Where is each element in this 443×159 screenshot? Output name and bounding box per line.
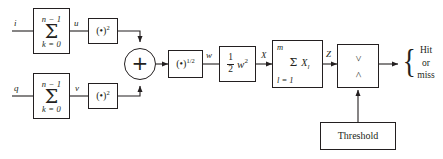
adder-node: + bbox=[124, 48, 156, 80]
sum-i-lower-limit: k = 0 bbox=[42, 40, 61, 49]
sqrt-expression: (•)1/2 bbox=[176, 58, 194, 69]
signal-label-X: X bbox=[261, 51, 267, 60]
adder-plus-symbol: + bbox=[132, 53, 149, 73]
signal-label-v: v bbox=[75, 84, 79, 93]
outcome-line-2: or bbox=[410, 57, 442, 70]
sum-q-sigma: Σ bbox=[45, 87, 58, 105]
threshold-label: Threshold bbox=[338, 131, 379, 141]
comparator-greater-symbol: > bbox=[353, 55, 364, 61]
signal-label-u: u bbox=[74, 19, 79, 28]
square-root-block: (•)1/2 bbox=[168, 50, 203, 78]
comparator-less-symbol: < bbox=[353, 71, 364, 77]
input-label-i: i bbox=[14, 19, 17, 28]
one-half-fraction: 1 2 bbox=[227, 53, 234, 75]
square-i-expression: (•)2 bbox=[96, 25, 109, 36]
comparator-block: > < bbox=[337, 44, 379, 88]
sum-xl-lower-limit: l = 1 bbox=[277, 76, 294, 85]
half-w-squared-block: 1 2 w2 bbox=[219, 46, 256, 82]
square-block-q: (•)2 bbox=[88, 83, 118, 109]
sum-xl-expression: ΣXl bbox=[273, 57, 322, 71]
square-block-i: (•)2 bbox=[88, 18, 118, 44]
block-diagram: i n − 1 Σ k = 0 u (•)2 q n − 1 Σ k = 0 v… bbox=[0, 0, 443, 159]
sum-i-sigma: Σ bbox=[45, 22, 58, 40]
signal-label-w: w bbox=[206, 51, 212, 60]
sum-xl-term: Xl bbox=[301, 57, 309, 68]
summation-block-q: n − 1 Σ k = 0 bbox=[33, 73, 70, 119]
outcome-text: Hit or miss bbox=[410, 44, 442, 82]
outcome-line-1: Hit bbox=[410, 44, 442, 57]
input-label-q: q bbox=[14, 84, 19, 93]
summation-block-i: n − 1 Σ k = 0 bbox=[33, 8, 70, 54]
fraction-numerator: 1 bbox=[227, 53, 234, 63]
outcome-line-3: miss bbox=[410, 69, 442, 82]
signal-label-Z: Z bbox=[326, 50, 331, 59]
w-squared-term: w2 bbox=[237, 58, 248, 70]
summation-block-xl: m ΣXl l = 1 bbox=[272, 40, 323, 88]
square-q-expression: (•)2 bbox=[96, 90, 109, 101]
sum-q-lower-limit: k = 0 bbox=[42, 105, 61, 114]
threshold-block: Threshold bbox=[320, 122, 396, 150]
sum-xl-upper-limit: m bbox=[277, 43, 283, 52]
fraction-denominator: 2 bbox=[227, 65, 234, 75]
